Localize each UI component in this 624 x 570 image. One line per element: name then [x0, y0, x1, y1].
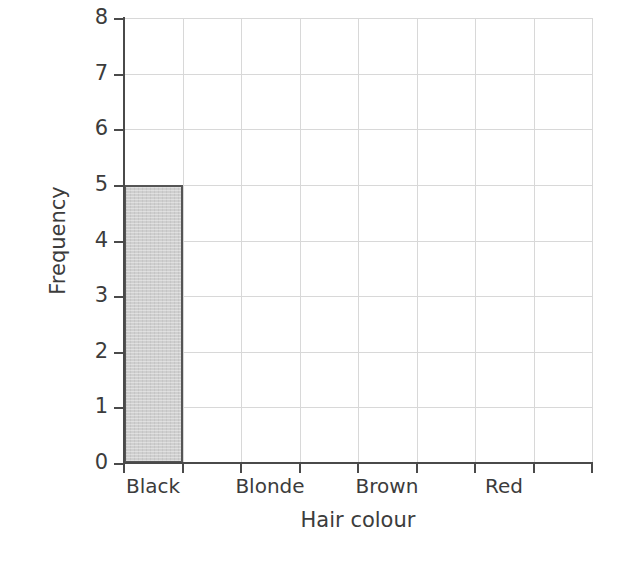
y-axis-line: [123, 17, 125, 464]
bar-black: [124, 185, 183, 463]
plot-area: [124, 18, 592, 463]
y-tick-label: 6: [68, 118, 108, 139]
y-tick-label: 2: [68, 341, 108, 362]
x-axis-title: Hair colour: [124, 508, 592, 533]
x-tick-mark: [416, 463, 418, 473]
x-tick-mark: [357, 463, 359, 473]
gridline-vertical: [592, 18, 593, 463]
x-tick-mark: [533, 463, 535, 473]
y-tick-mark: [114, 185, 123, 187]
x-category-label-red: Red: [444, 474, 564, 498]
gridline-vertical: [475, 18, 476, 463]
gridline-vertical: [358, 18, 359, 463]
x-category-label-brown: Brown: [327, 474, 447, 498]
x-tick-mark: [240, 463, 242, 473]
y-tick-mark: [114, 407, 123, 409]
y-tick-label: 7: [68, 63, 108, 84]
x-tick-mark: [123, 463, 125, 473]
bar-chart: 012345678 BlackBlondeBrownRed Hair colou…: [0, 0, 624, 570]
gridline-vertical: [300, 18, 301, 463]
x-tick-mark: [474, 463, 476, 473]
y-tick-mark: [114, 463, 123, 465]
y-tick-mark: [114, 296, 123, 298]
x-tick-mark: [591, 463, 593, 473]
y-tick-label: 8: [68, 7, 108, 28]
y-tick-mark: [114, 129, 123, 131]
x-tick-mark: [299, 463, 301, 473]
y-tick-mark: [114, 352, 123, 354]
y-axis-title: Frequency: [46, 18, 70, 463]
x-category-label-blonde: Blonde: [210, 474, 330, 498]
gridline-vertical: [417, 18, 418, 463]
y-tick-mark: [114, 241, 123, 243]
x-category-label-black: Black: [93, 474, 213, 498]
y-tick-label: 3: [68, 285, 108, 306]
y-tick-label: 0: [68, 452, 108, 473]
y-tick-label: 5: [68, 174, 108, 195]
gridline-vertical: [534, 18, 535, 463]
y-tick-mark: [114, 18, 123, 20]
gridline-vertical: [241, 18, 242, 463]
x-tick-mark: [182, 463, 184, 473]
gridline-vertical: [183, 18, 184, 463]
y-tick-label: 1: [68, 396, 108, 417]
y-tick-mark: [114, 74, 123, 76]
y-tick-label: 4: [68, 230, 108, 251]
